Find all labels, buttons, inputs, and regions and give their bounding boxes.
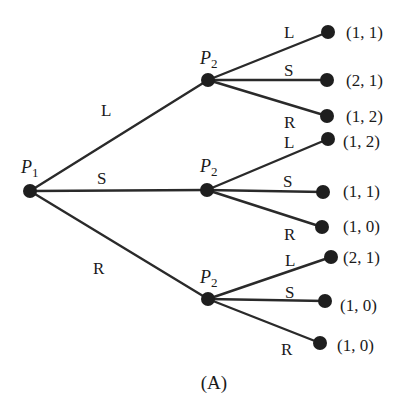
move-label-mid-s: S xyxy=(283,172,292,191)
edge-top-l xyxy=(208,32,328,80)
node-p2-mid xyxy=(200,183,214,197)
edge-bot-l xyxy=(208,257,331,299)
edge-bot-s xyxy=(208,299,325,301)
edge-mid-s xyxy=(207,190,323,192)
move-label-bot-r: R xyxy=(281,340,293,359)
leaf-top-s xyxy=(320,73,334,87)
payoff-top-l: (1, 1) xyxy=(346,23,383,42)
player-label-p2-mid: P2 xyxy=(199,156,218,179)
payoff-mid-l: (1, 2) xyxy=(343,132,380,151)
player-label-p2-top: P2 xyxy=(199,48,218,71)
move-label-mid-r: R xyxy=(284,225,296,244)
edge-mid-r xyxy=(207,190,322,227)
edge-mid-l xyxy=(207,139,328,190)
leaf-mid-r xyxy=(315,220,329,234)
payoff-mid-r: (1, 0) xyxy=(343,217,380,236)
leaf-bot-s xyxy=(318,294,332,308)
leaf-bot-r xyxy=(313,336,327,350)
edge-bot-r xyxy=(208,299,320,343)
leaf-top-l xyxy=(321,25,335,39)
edge-top-r xyxy=(208,80,327,116)
node-p1 xyxy=(23,184,37,198)
move-label-mid-l: L xyxy=(284,133,294,152)
payoff-mid-s: (1, 1) xyxy=(343,182,380,201)
move-label-top-s: S xyxy=(284,61,293,80)
player-label-p1: P1 xyxy=(20,157,39,180)
edge-p1-s xyxy=(30,190,207,191)
leaf-mid-l xyxy=(321,132,335,146)
leaf-bot-l xyxy=(324,250,338,264)
move-label-bot-l: L xyxy=(285,251,295,270)
game-tree-figure: P1 P2 P2 P2 L S R L S R L S R L S R (1, … xyxy=(0,0,412,419)
player-label-p2-bot: P2 xyxy=(199,267,218,290)
leaf-mid-s xyxy=(316,185,330,199)
edge-p1-r xyxy=(30,191,208,299)
payoff-top-r: (1, 2) xyxy=(346,107,383,126)
move-label-top-r: R xyxy=(284,113,296,132)
payoff-bot-l: (2, 1) xyxy=(343,248,380,267)
move-label-p1-s: S xyxy=(97,169,106,188)
node-p2-top xyxy=(201,73,215,87)
move-label-p1-l: L xyxy=(101,101,111,120)
payoff-top-s: (2, 1) xyxy=(346,71,383,90)
figure-caption: (A) xyxy=(201,372,227,394)
payoff-bot-s: (1, 0) xyxy=(340,296,377,315)
move-label-top-l: L xyxy=(284,23,294,42)
node-p2-bot xyxy=(201,292,215,306)
game-tree-svg: P1 P2 P2 P2 L S R L S R L S R L S R (1, … xyxy=(0,0,412,419)
move-label-bot-s: S xyxy=(285,283,294,302)
payoff-bot-r: (1, 0) xyxy=(337,336,374,355)
leaf-top-r xyxy=(320,109,334,123)
edge-p1-l xyxy=(30,80,208,191)
move-label-p1-r: R xyxy=(93,259,105,278)
